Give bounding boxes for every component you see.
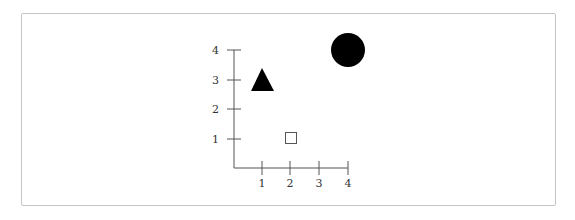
y-tick-label: 4 [212,44,219,57]
triangle-marker [251,68,274,91]
square-marker [286,133,297,144]
y-tick-label: 3 [212,74,219,87]
x-tick-label: 4 [345,177,352,190]
x-tick-label: 3 [316,177,323,190]
y-tick-label: 2 [212,103,219,116]
scatter-chart: 4 3 2 1 1 2 3 4 [0,0,575,220]
x-tick-label: 2 [287,177,294,190]
x-tick-label: 1 [259,177,266,190]
y-tick-label: 1 [212,133,219,146]
circle-marker [331,33,365,67]
